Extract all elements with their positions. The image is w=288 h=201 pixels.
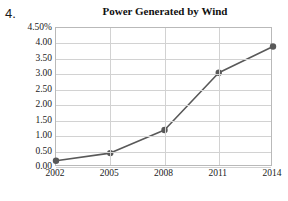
gridline-horizontal (56, 90, 271, 91)
data-point-marker (53, 158, 59, 164)
y-axis-tick-label: 1.00 (0, 130, 52, 140)
y-axis-tick-label: 3.00 (0, 68, 52, 78)
y-axis-tick-label: 4.00 (0, 37, 52, 47)
x-axis-tick-label: 2011 (208, 168, 227, 178)
x-axis-tick-label: 2005 (100, 168, 119, 178)
y-axis-tick-label: 2.00 (0, 99, 52, 109)
gridline-vertical (219, 28, 220, 165)
question-number: 4. (5, 6, 16, 21)
y-axis-tick-label: 1.50 (0, 115, 52, 125)
gridline-vertical (165, 28, 166, 165)
gridline-horizontal (56, 74, 271, 75)
y-axis-tick-label: 0.00 (0, 161, 52, 171)
y-axis-labels: 0.000.501.001.502.002.503.003.504.004.50… (0, 27, 52, 166)
y-axis-tick-label: 3.50 (0, 53, 52, 63)
y-axis-tick-label: 0.50 (0, 146, 52, 156)
gridline-horizontal (56, 152, 271, 153)
gridline-horizontal (56, 59, 271, 60)
x-axis-tick-label: 2014 (263, 168, 282, 178)
y-axis-tick-label: 4.50% (0, 22, 52, 32)
gridline-horizontal (56, 121, 271, 122)
gridline-horizontal (56, 43, 271, 44)
gridline-vertical (110, 28, 111, 165)
chart-title: Power Generated by Wind (58, 5, 272, 17)
plot-area (55, 27, 272, 166)
x-axis-tick-label: 2002 (46, 168, 65, 178)
y-axis-tick-label: 2.50 (0, 84, 52, 94)
x-axis-tick-label: 2008 (154, 168, 173, 178)
gridline-horizontal (56, 105, 271, 106)
x-axis-labels: 20022005200820112014 (55, 168, 272, 186)
gridline-horizontal (56, 136, 271, 137)
chart-figure: 4. Power Generated by Wind 0.000.501.001… (0, 0, 288, 201)
